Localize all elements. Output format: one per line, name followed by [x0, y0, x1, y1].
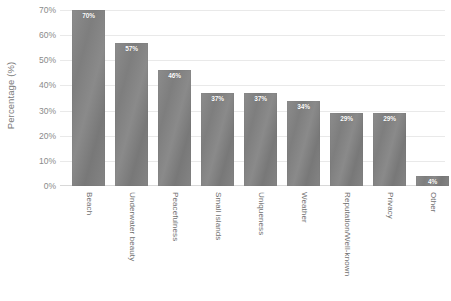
- bar[interactable]: 46%: [158, 70, 191, 186]
- bar-value-label: 57%: [115, 45, 148, 52]
- x-axis-category-label-text: Underwater beauty: [127, 192, 136, 261]
- bar[interactable]: 37%: [201, 93, 234, 186]
- x-axis-category-labels: BeachUnderwater beautyPeacefulnessSmall …: [60, 188, 445, 298]
- bar[interactable]: 34%: [287, 101, 320, 186]
- x-axis-category-label-text: Small islands: [213, 192, 222, 240]
- bar-chart: Percentage (%) 0%10%20%30%40%50%60%70% 7…: [0, 0, 451, 301]
- y-axis-tick-label: 60%: [39, 30, 56, 40]
- x-axis-category-label-text: Weather: [299, 192, 308, 223]
- x-axis-category-label: Reputation/Well-known: [330, 188, 363, 296]
- x-axis-category-label-text: Uniqueness: [256, 192, 265, 235]
- bar-column[interactable]: 57%: [115, 43, 148, 186]
- bar-column[interactable]: 29%: [373, 113, 406, 186]
- x-axis-category-label: Small islands: [201, 188, 234, 296]
- x-axis-category-label: Peacefulness: [158, 188, 191, 296]
- bar-value-label: 34%: [287, 103, 320, 110]
- y-axis-tick-label: 40%: [39, 80, 56, 90]
- plot-area: 70%57%46%37%37%34%29%29%4%: [60, 10, 445, 186]
- x-axis-category-label-text: Peacefulness: [170, 192, 179, 241]
- bar[interactable]: 37%: [244, 93, 277, 186]
- bar-column[interactable]: 4%: [416, 176, 449, 186]
- y-axis-tick-label: 20%: [39, 131, 56, 141]
- bar-value-label: 29%: [373, 115, 406, 122]
- bar-column[interactable]: 29%: [330, 113, 363, 186]
- bar-column[interactable]: 34%: [287, 101, 320, 186]
- x-axis-category-label: Uniqueness: [244, 188, 277, 296]
- bar-column[interactable]: 37%: [244, 93, 277, 186]
- bar-value-label: 46%: [158, 72, 191, 79]
- y-axis-tick-label: 10%: [39, 156, 56, 166]
- x-axis-category-label-text: Beach: [84, 192, 93, 215]
- y-axis-tick-label: 50%: [39, 55, 56, 65]
- bar-column[interactable]: 37%: [201, 93, 234, 186]
- bar[interactable]: 70%: [72, 10, 105, 186]
- bar-value-label: 70%: [72, 12, 105, 19]
- y-axis-title-text: Percentage (%): [6, 61, 17, 128]
- y-axis-tick-labels: 0%10%20%30%40%50%60%70%: [24, 10, 58, 186]
- x-axis-category-label-text: Reputation/Well-known: [342, 192, 351, 276]
- bar[interactable]: 29%: [373, 113, 406, 186]
- bar-value-label: 37%: [244, 95, 277, 102]
- bar-value-label: 37%: [201, 95, 234, 102]
- bar-value-label: 4%: [416, 178, 449, 185]
- bar[interactable]: 29%: [330, 113, 363, 186]
- bar-column[interactable]: 70%: [72, 10, 105, 186]
- x-axis-category-label: Weather: [287, 188, 320, 296]
- bar[interactable]: 4%: [416, 176, 449, 186]
- x-axis-category-label-text: Privacy: [385, 192, 394, 219]
- bar-value-label: 29%: [330, 115, 363, 122]
- bar[interactable]: 57%: [115, 43, 148, 186]
- x-axis-category-label: Beach: [72, 188, 105, 296]
- x-axis-category-label-text: Other: [428, 192, 437, 213]
- y-axis-tick-label: 0%: [44, 181, 56, 191]
- x-axis-category-label: Underwater beauty: [115, 188, 148, 296]
- x-axis-category-label: Other: [416, 188, 449, 296]
- bar-series: 70%57%46%37%37%34%29%29%4%: [60, 10, 445, 186]
- y-axis-tick-label: 70%: [39, 5, 56, 15]
- y-axis-tick-label: 30%: [39, 106, 56, 116]
- x-axis-category-label: Privacy: [373, 188, 406, 296]
- y-axis-title: Percentage (%): [0, 0, 22, 190]
- bar-column[interactable]: 46%: [158, 70, 191, 186]
